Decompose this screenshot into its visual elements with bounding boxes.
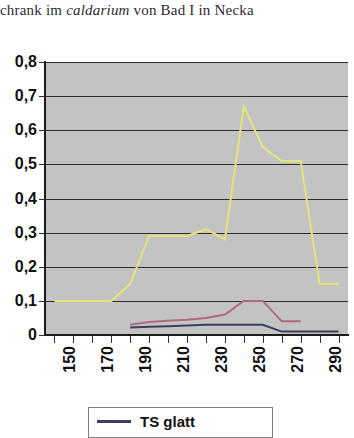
y-axis-tick-label: 0,3 (15, 224, 37, 242)
caption-before: chrank im (0, 2, 66, 18)
y-axis-tick (39, 62, 45, 63)
x-axis-tick-label: 170 (99, 346, 117, 373)
y-axis-tick (39, 267, 45, 268)
legend-item: TS glatt (89, 408, 272, 434)
x-axis-tick (92, 336, 93, 343)
x-axis-tick-label: 250 (251, 346, 269, 373)
x-axis-tick (73, 336, 74, 343)
x-axis-tick (320, 336, 321, 343)
x-axis-tick (282, 336, 283, 343)
x-axis-tick (206, 336, 207, 343)
series-line-navy-series (130, 325, 338, 332)
x-axis-tick (168, 336, 169, 343)
x-axis-tick (225, 336, 226, 343)
y-axis-tick-label: 0,7 (15, 87, 37, 105)
figure-caption: chrank im caldarium von Bad I in Necka (0, 0, 354, 22)
x-axis-tick (301, 336, 302, 343)
series-line-pink-series (130, 301, 300, 325)
y-axis-labels: 0,80,70,60,50,40,30,20,10 (0, 26, 42, 316)
y-axis-tick (39, 96, 45, 97)
x-axis-tick (54, 336, 55, 343)
y-axis-tick-label: 0,5 (15, 155, 37, 173)
y-axis-tick-label: 0,6 (15, 121, 37, 139)
y-axis-tick-label: 0,8 (15, 53, 37, 71)
y-axis-tick-label: 0,4 (15, 190, 37, 208)
x-axis-tick-label: 290 (327, 346, 345, 373)
y-axis-tick (39, 199, 45, 200)
caption-after: von Bad I in Necka (130, 2, 254, 18)
y-axis-tick (39, 301, 45, 302)
y-axis-tick (39, 233, 45, 234)
x-axis-tick-label: 150 (61, 346, 79, 373)
x-axis-labels: 150170190210230250270290 (0, 344, 354, 402)
y-axis-tick (39, 164, 45, 165)
legend-label: TS glatt (140, 413, 195, 430)
x-axis-tick (187, 336, 188, 343)
chart-legend: TS glatt (88, 407, 273, 438)
y-axis-tick-label: 0 (28, 326, 37, 344)
caption-italic-term: caldarium (66, 2, 129, 18)
series-line-yellow-series (54, 106, 338, 301)
x-axis-tick (111, 336, 112, 343)
x-axis-tick-label: 270 (289, 346, 307, 373)
x-axis-tick-label: 190 (137, 346, 155, 373)
y-axis-tick (39, 335, 45, 336)
x-axis-tick (339, 336, 340, 343)
x-axis-tick (244, 336, 245, 343)
y-axis-tick-label: 0,2 (15, 258, 37, 276)
x-axis-tick (130, 336, 131, 343)
legend-line-swatch (97, 420, 131, 423)
x-axis-tick (263, 336, 264, 343)
y-axis-tick (39, 130, 45, 131)
x-axis-tick (149, 336, 150, 343)
x-axis-tick-label: 210 (175, 346, 193, 373)
line-chart: 0,80,70,60,50,40,30,20,10 15017019021023… (0, 26, 354, 438)
data-series-group (45, 62, 348, 335)
x-axis-tick-label: 230 (213, 346, 231, 373)
y-axis-tick-label: 0,1 (15, 292, 37, 310)
